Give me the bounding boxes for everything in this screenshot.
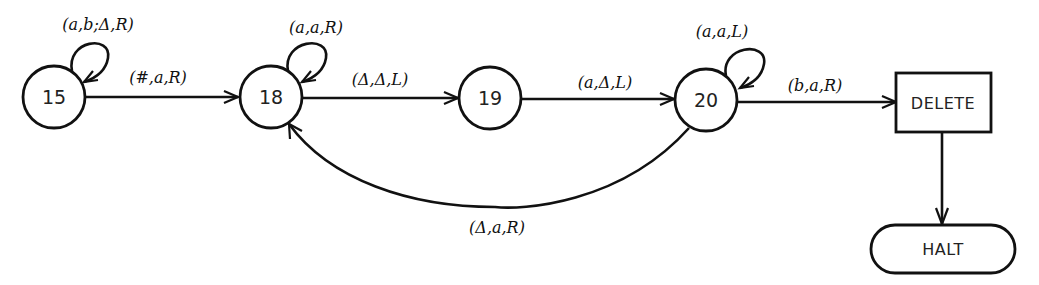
- state-20: 20: [675, 69, 737, 131]
- state-19: 19: [459, 67, 521, 129]
- label-20-delete: (b,a,R): [788, 76, 842, 95]
- label-loop-18: (a,a,R): [289, 18, 343, 37]
- edge-delete-halt: [936, 132, 948, 224]
- label-20-18: (Δ,a,R): [469, 218, 525, 237]
- state-halt-label: HALT: [922, 240, 963, 259]
- state-delete: DELETE: [896, 73, 991, 132]
- state-15: 15: [23, 66, 85, 128]
- label-18-19: (Δ,Δ,L): [352, 70, 408, 89]
- state-diagram: (a,b;Δ,R) (#,a,R) (a,a,R) (Δ,Δ,L) (a,Δ,L…: [0, 0, 1039, 285]
- edge-15-18: [86, 91, 238, 103]
- edge-20-delete: [738, 96, 896, 108]
- state-18: 18: [240, 66, 302, 128]
- state-delete-label: DELETE: [911, 94, 975, 113]
- state-18-label: 18: [259, 86, 283, 108]
- state-19-label: 19: [478, 87, 502, 109]
- label-19-20: (a,Δ,L): [578, 73, 632, 92]
- label-loop-20: (a,a,L): [696, 22, 748, 41]
- edge-20-18: [289, 124, 689, 208]
- state-15-label: 15: [42, 86, 66, 108]
- label-loop-15: (a,b;Δ,R): [62, 15, 133, 34]
- edge-18-19: [303, 92, 458, 104]
- label-15-18: (#,a,R): [129, 68, 187, 87]
- state-20-label: 20: [694, 89, 718, 111]
- state-halt: HALT: [871, 225, 1015, 273]
- edge-19-20: [522, 93, 674, 105]
